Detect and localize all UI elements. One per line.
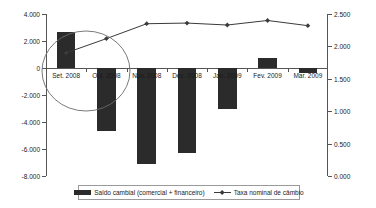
right-axis-tick-label: 0.500: [334, 140, 350, 147]
line-marker-swatch-icon: [214, 189, 231, 196]
line-marker: [104, 36, 109, 41]
right-axis-tick-label: 1.000: [334, 108, 350, 115]
left-axis-tick-label: -2.000: [22, 92, 40, 99]
x-axis-category-label: Fev. 2009: [247, 72, 287, 80]
line-marker: [64, 50, 69, 55]
right-axis-tick: [328, 144, 332, 145]
line-marker: [185, 21, 190, 26]
right-axis-tick: [328, 79, 332, 80]
line-marker: [305, 23, 310, 28]
x-axis-category-label: Mar. 2009: [288, 72, 328, 80]
left-axis-tick-label: 2.000: [24, 38, 40, 45]
line-marker: [225, 23, 230, 28]
legend-entry-saldo-cambial: Saldo cambial (comercial + financeiro): [74, 189, 204, 196]
x-axis-category-label: Set. 2008: [46, 72, 86, 80]
chart-container: 4.0002.0000-2.000-4.000-6.000-8.000 2.50…: [0, 0, 376, 208]
left-axis-tick-label: 0: [36, 65, 40, 72]
line-marker: [265, 18, 270, 23]
right-axis-tick-label: 2.000: [334, 43, 350, 50]
left-axis-tick: [42, 176, 46, 177]
right-axis-tick: [328, 46, 332, 47]
left-axis-tick-label: -6.000: [22, 146, 40, 153]
line-marker: [144, 21, 149, 26]
right-axis-tick: [328, 111, 332, 112]
left-axis-tick-label: -4.000: [22, 119, 40, 126]
legend-label-taxa-nominal: Taxa nominal de câmbio: [234, 189, 304, 196]
right-axis-tick: [328, 176, 332, 177]
left-axis-tick-label: -8.000: [22, 173, 40, 180]
chart-legend: Saldo cambial (comercial + financeiro) T…: [78, 185, 300, 200]
bar-swatch-icon: [74, 190, 91, 195]
x-axis-category-label: Nov. 2008: [127, 72, 167, 80]
left-axis-tick-label: 4.000: [24, 11, 40, 18]
right-axis-tick-label: 2.500: [334, 11, 350, 18]
right-axis-tick: [328, 14, 332, 15]
line-series: [46, 14, 328, 176]
legend-entry-taxa-nominal: Taxa nominal de câmbio: [214, 189, 304, 196]
x-axis-category-label: Dez. 2008: [167, 72, 207, 80]
x-axis-category-label: Jan. 2009: [207, 72, 247, 80]
x-axis-category-label: Out. 2008: [86, 72, 126, 80]
legend-label-saldo-cambial: Saldo cambial (comercial + financeiro): [94, 189, 204, 196]
right-axis-tick-label: 0.000: [334, 173, 350, 180]
plot-area: 4.0002.0000-2.000-4.000-6.000-8.000 2.50…: [46, 14, 328, 176]
right-axis-tick-label: 1.500: [334, 75, 350, 82]
